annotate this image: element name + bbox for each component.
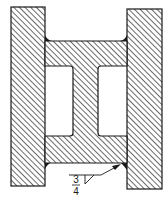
bottom-right-fillet-weld (121, 163, 127, 170)
top-left-fillet-weld (45, 35, 52, 41)
i-beam (45, 41, 127, 163)
welded-joint-diagram: 3 4 (0, 0, 167, 211)
left-plate (11, 7, 45, 186)
weld-symbol: 3 4 (69, 164, 121, 197)
arrowhead-icon (112, 164, 121, 170)
weld-size-denominator: 4 (73, 186, 79, 197)
weld-size-numerator: 3 (73, 174, 79, 185)
fillet-weld-symbol-icon (85, 175, 94, 184)
top-right-fillet-weld (120, 35, 127, 41)
bottom-left-fillet-weld (45, 163, 50, 169)
right-plate (127, 9, 162, 189)
arrow-leader (101, 168, 114, 175)
